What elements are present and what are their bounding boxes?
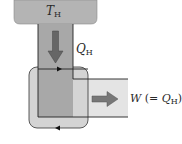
- reservoir-label: TH: [46, 4, 61, 19]
- work-output-label: W (= QH): [130, 92, 182, 106]
- diagram-canvas: [0, 0, 182, 144]
- heat-input-label: QH: [76, 42, 93, 57]
